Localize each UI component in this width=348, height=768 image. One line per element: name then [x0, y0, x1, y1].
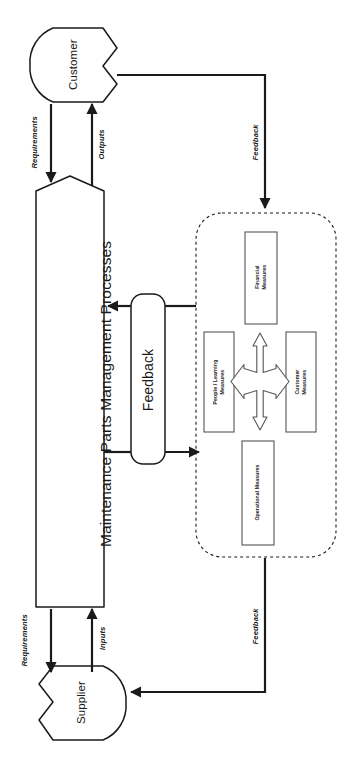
feedback-box-shape [131, 294, 165, 464]
arrow-feedback-supplier [131, 558, 265, 692]
arrow-feedback-customer [117, 75, 265, 208]
financial-measures-box [245, 232, 277, 324]
supplier-shape [39, 666, 126, 740]
customer-measures-box [286, 332, 316, 432]
operational-measures-box [242, 441, 274, 545]
customer-shape [30, 28, 117, 102]
diagram-canvas: Customer Maintenance Parts Management Pr… [0, 0, 348, 768]
diagram-vector-layer [0, 0, 348, 768]
people-learning-measures-box [204, 332, 234, 432]
process-shape [36, 176, 104, 607]
